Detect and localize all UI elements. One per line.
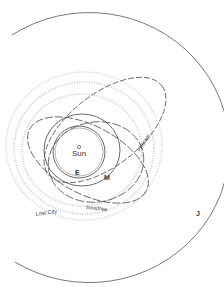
innisfree-label: Innisfree — [86, 204, 108, 212]
pribram-label: Příbram — [136, 132, 152, 152]
lost-city-orbit — [14, 99, 162, 221]
earth-label: E — [75, 169, 80, 176]
sun-label: Sun — [72, 149, 86, 158]
mars-label: M — [104, 174, 110, 181]
lost-city-label: Lost City — [35, 208, 57, 217]
jupiter-label: J — [196, 210, 200, 217]
orbital-diagram: Sun E M J Příbram Lost City Innisfree — [0, 0, 224, 294]
